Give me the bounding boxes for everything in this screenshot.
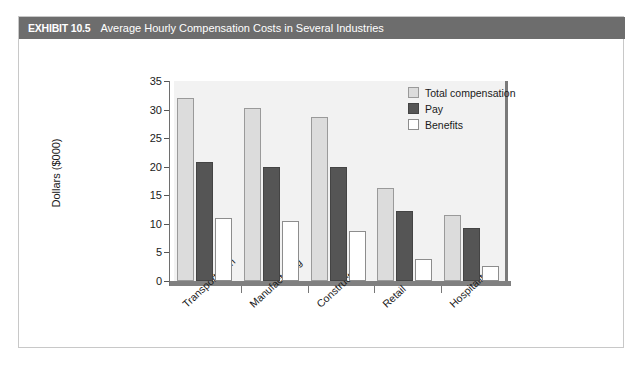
x-axis-category-label: Retail [380,283,408,310]
bar [311,117,328,281]
x-axis-tick-mark [308,286,309,293]
y-axis-tick-label: 5 [138,247,162,257]
bar [444,215,461,281]
bar [396,211,413,281]
x-axis-tick-mark [374,286,375,293]
bar [196,162,213,281]
bar [282,221,299,281]
y-axis-title: Dollars ($000) [50,118,62,228]
bar [377,188,394,281]
bar [482,266,499,281]
exhibit-number-label: EXHIBIT 10.5 [28,22,90,34]
bar [349,231,366,281]
exhibit-title: Average Hourly Compensation Costs in Sev… [100,22,384,34]
y-axis-tick-label: 25 [138,133,162,143]
exhibit-header-bar: EXHIBIT 10.5 Average Hourly Compensation… [19,17,625,39]
bar [330,167,347,281]
y-axis-tick-label: 15 [138,190,162,200]
y-axis-tick-labels: 05101520253035 [132,39,162,299]
x-axis-tick-mark [441,286,442,293]
bar [244,108,261,281]
y-axis-tick-label: 10 [138,219,162,229]
bar-group [377,81,432,281]
bar-group [244,81,299,281]
bar-group [444,81,499,281]
bar-group [177,81,232,281]
x-axis-tick-mark [241,286,242,293]
chart-canvas: Dollars ($000) 05101520253035 Transporta… [19,39,625,348]
bar [177,98,194,281]
bar [215,218,232,281]
bar [463,228,480,281]
exhibit-figure: EXHIBIT 10.5 Average Hourly Compensation… [18,16,624,348]
bar [415,259,432,281]
y-axis-tick-label: 20 [138,162,162,172]
y-axis-tick-label: 35 [138,76,162,86]
bar-group [311,81,366,281]
bar [263,167,280,281]
y-axis-tick-label: 0 [138,276,162,286]
y-axis-line [169,81,170,286]
y-axis-tick-label: 30 [138,105,162,115]
